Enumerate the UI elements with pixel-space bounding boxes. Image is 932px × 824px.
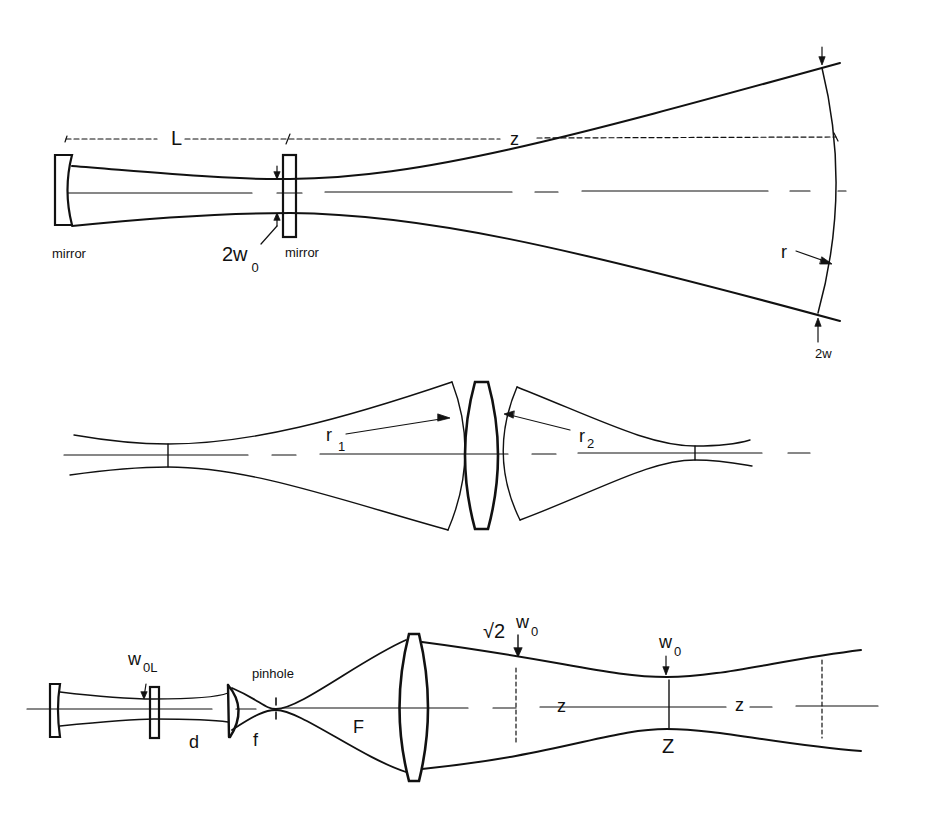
figure-drawing [0, 0, 932, 824]
label-w0a-sub: 0 [531, 624, 538, 639]
label-mirror-right: mirror [285, 246, 319, 259]
label-Z: Z [662, 736, 674, 756]
optics-figure: L z mirror mirror 2w0 r 2w r1 r2 w0L d f… [0, 0, 932, 824]
label-w0b-main: w [659, 632, 672, 652]
label-2w0-sub: 0 [252, 260, 259, 275]
label-w0L-sub: 0L [143, 660, 157, 675]
label-w0a-main: w [516, 612, 529, 632]
label-L: L [171, 128, 182, 148]
label-w0b-sub: 0 [674, 644, 681, 659]
label-sqrt2-w0: w0 [516, 613, 536, 631]
label-mirror-left: mirror [52, 247, 86, 260]
panel-middle-drawing [64, 382, 810, 530]
label-f: f [253, 731, 258, 749]
label-sqrt2: √2 [483, 621, 505, 641]
label-r2-sub: 2 [587, 436, 594, 451]
label-z-left: z [557, 697, 566, 715]
label-r: r [781, 243, 787, 261]
label-F: F [353, 718, 364, 736]
label-pinhole: pinhole [252, 667, 294, 680]
panel-top-drawing [55, 47, 846, 342]
label-r1-main: r [326, 425, 332, 445]
label-d: d [189, 733, 199, 751]
label-z-distance: z [510, 130, 519, 148]
label-2w: 2w [815, 347, 832, 360]
label-r1: r1 [326, 426, 339, 444]
label-r1-sub: 1 [338, 439, 345, 454]
label-2w0: 2w0 [222, 244, 255, 264]
label-w0-waist: w0 [659, 633, 679, 651]
label-r2: r2 [579, 427, 592, 445]
label-w0L-main: w [128, 649, 141, 669]
label-r2-main: r [579, 426, 585, 446]
label-2w0-main: 2w [222, 243, 248, 265]
label-z-right: z [735, 696, 744, 714]
label-w0L: w0L [128, 650, 155, 668]
